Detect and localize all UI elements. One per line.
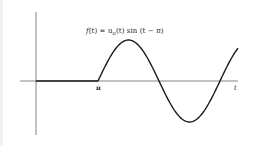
x-tick-pi-label: π (96, 84, 101, 92)
x-axis-label: t (234, 84, 237, 92)
formula-end: (t) sin (t − π) (116, 27, 164, 35)
function-formula-label: f(t) = uπ(t) sin (t − π) (86, 27, 164, 36)
step-function-sine-plot: f(t) = uπ(t) sin (t − π) π t (0, 0, 254, 146)
plot-canvas (0, 0, 254, 146)
formula-mid: (t) = u (89, 27, 113, 35)
